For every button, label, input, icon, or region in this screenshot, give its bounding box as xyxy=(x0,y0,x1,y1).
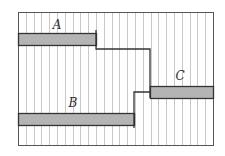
bar-label-c: C xyxy=(175,69,184,83)
step-diagram: ABC xyxy=(0,0,225,156)
bar-b xyxy=(19,114,135,126)
bar-a xyxy=(19,34,97,46)
bar-c xyxy=(151,87,214,99)
bar-label-a: A xyxy=(52,18,62,32)
bar-label-b: B xyxy=(68,96,78,110)
step-path-b-to-c xyxy=(134,92,150,128)
